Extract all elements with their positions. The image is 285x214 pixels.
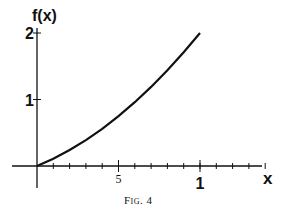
x-tick-label: 5	[116, 172, 122, 186]
x-tick-label: 1	[196, 175, 205, 192]
series-line-f-x	[37, 33, 200, 166]
y-axis-label: f(x)	[32, 7, 57, 24]
x-axis-label: x	[263, 169, 273, 188]
y-tick-label: 2	[25, 25, 34, 42]
chart: 5112 f(x) x Fig. 4	[0, 0, 285, 214]
figure-caption: Fig. 4	[124, 194, 153, 206]
y-tick-label: 1	[25, 92, 34, 109]
